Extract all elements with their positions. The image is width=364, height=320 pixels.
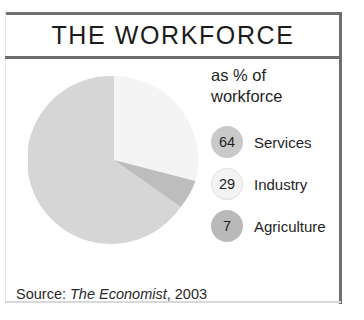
title-band: THE WORKFORCE [5,15,341,56]
legend-label-agriculture: Agriculture [254,218,326,235]
source-note: Source: The Economist, 2003 [16,286,207,302]
legend-item-agriculture: 7 Agriculture [211,205,339,247]
legend-value-badge-industry: 29 [211,168,243,200]
page-title: THE WORKFORCE [51,21,294,50]
source-publication: The Economist [70,286,167,302]
legend-heading: as % of workforce [211,65,331,107]
legend-label-industry: Industry [254,176,307,193]
legend: as % of workforce 64 Services 29 Industr… [211,65,339,247]
pie-chart-svg [28,74,200,246]
source-suffix: , 2003 [167,286,207,302]
legend-label-services: Services [254,134,312,151]
legend-item-services: 64 Services [211,121,339,163]
pie-chart [28,74,200,246]
plot-area: as % of workforce 64 Services 29 Industr… [6,59,339,283]
legend-item-industry: 29 Industry [211,163,339,205]
source-prefix: Source: [16,286,66,302]
legend-value-badge-services: 64 [211,126,243,158]
workforce-pie-figure: THE WORKFORCE as % of workforce 64 Servi… [0,0,364,320]
legend-value-badge-agriculture: 7 [211,210,243,242]
